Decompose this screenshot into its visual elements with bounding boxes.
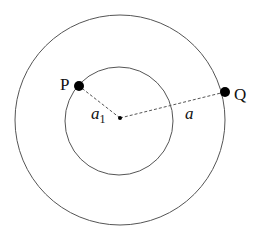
label-p: P (60, 75, 69, 94)
label-a1-subscript: 1 (100, 112, 106, 126)
center-point (118, 116, 122, 120)
label-a1: a1 (91, 104, 106, 126)
label-q: Q (234, 85, 246, 104)
point-q (220, 87, 230, 97)
orbit-diagram: P Q a1 a (0, 0, 257, 236)
label-a: a (185, 104, 194, 123)
point-p (74, 81, 84, 91)
